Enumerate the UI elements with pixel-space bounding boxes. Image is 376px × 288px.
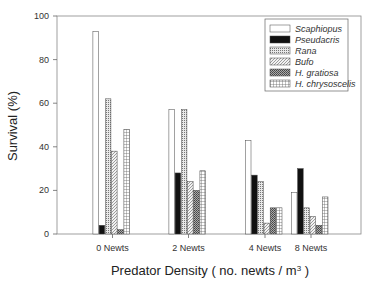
bar (181, 110, 187, 234)
bar (316, 225, 322, 234)
x-axis-title: Predator Density ( no. newts / m3 ) (111, 263, 309, 278)
bar (194, 190, 200, 234)
bar (252, 175, 258, 234)
bar (270, 208, 276, 234)
bar (93, 31, 99, 234)
bar (124, 129, 130, 234)
bar (276, 208, 282, 234)
bar (298, 169, 304, 234)
y-tick-label: 0 (44, 229, 49, 239)
legend-swatch (270, 69, 290, 76)
y-tick-label: 100 (34, 11, 49, 21)
y-tick-label: 80 (39, 55, 49, 65)
legend-swatch (270, 47, 290, 54)
bar (118, 230, 124, 234)
x-tick-label: 0 Newts (96, 243, 129, 253)
y-tick-label: 60 (39, 98, 49, 108)
y-tick-label: 40 (39, 142, 49, 152)
legend-label: Bufo (295, 57, 314, 67)
bar (304, 208, 310, 234)
bar (112, 151, 118, 234)
y-tick-label: 20 (39, 185, 49, 195)
bar (291, 193, 297, 234)
bar (245, 140, 251, 234)
bar (322, 197, 328, 234)
bar (105, 99, 111, 234)
legend: ScaphiopusPseudacrisRanaBufoH. gratiosaH… (265, 19, 356, 91)
legend-label: H. gratiosa (295, 68, 339, 78)
x-tick-label: 2 Newts (172, 243, 205, 253)
legend-swatch (270, 36, 290, 43)
y-axis-title: Survival (%) (5, 91, 20, 161)
legend-swatch (270, 25, 290, 32)
x-tick-label: 8 Newts (295, 243, 328, 253)
bar (310, 217, 316, 234)
bar (175, 173, 181, 234)
bar (200, 171, 206, 234)
legend-label: Rana (295, 46, 317, 56)
survival-bar-chart: 020406080100 0 Newts2 Newts4 Newts8 Newt… (0, 0, 376, 288)
bar (264, 223, 270, 234)
x-axis: 0 Newts2 Newts4 Newts8 Newts (96, 234, 328, 253)
legend-label: Pseudacris (295, 35, 340, 45)
legend-swatch (270, 80, 290, 87)
legend-swatch (270, 58, 290, 65)
x-tick-label: 4 Newts (249, 243, 282, 253)
bar (188, 182, 194, 234)
legend-label: Scaphiopus (295, 24, 343, 34)
bar (258, 182, 264, 234)
bar (169, 110, 175, 234)
bar (99, 225, 105, 234)
y-axis: 020406080100 (34, 11, 57, 239)
legend-label: H. chrysoscelis (295, 79, 356, 89)
